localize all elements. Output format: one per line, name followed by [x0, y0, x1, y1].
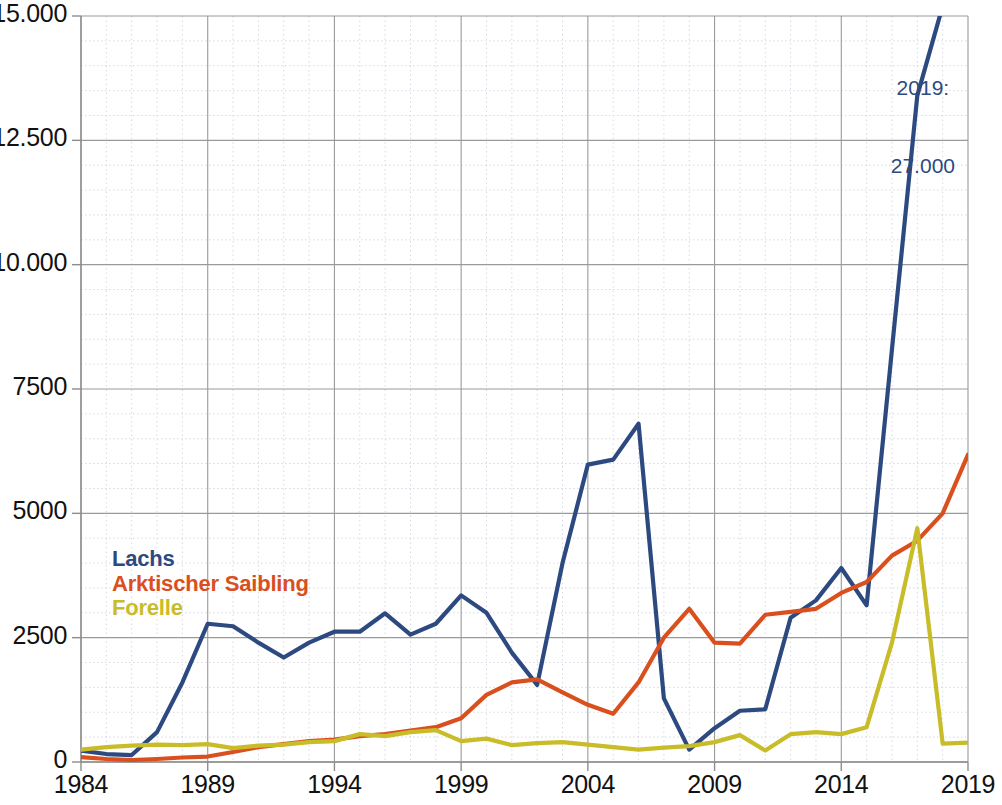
x-axis-tick-label: 1999 [391, 770, 531, 799]
x-axis-tick-label: 2014 [771, 770, 911, 799]
callout-year: 2019: [891, 75, 955, 101]
x-axis-tick-label: 1984 [11, 770, 151, 799]
chart-legend: Lachs Arktischer Saibling Forelle [112, 547, 309, 621]
x-axis-tick-label: 1989 [138, 770, 278, 799]
chart-container: Lachs Arktischer Saibling Forelle 2019: … [0, 0, 1002, 805]
legend-item-arktischer-saibling: Arktischer Saibling [112, 572, 309, 597]
legend-label-lachs: Lachs [112, 546, 175, 571]
legend-item-forelle: Forelle [112, 596, 309, 621]
x-axis-tick-label: 2004 [518, 770, 658, 799]
legend-item-lachs: Lachs [112, 547, 309, 572]
y-axis-tick-label: 7500 [13, 372, 67, 401]
legend-label-forelle: Forelle [112, 595, 183, 620]
x-axis-tick-label: 2019 [898, 770, 1002, 799]
x-axis-tick-label: 2009 [645, 770, 785, 799]
x-axis-tick-label: 1994 [264, 770, 404, 799]
callout-value: 27.000 [891, 153, 955, 179]
y-axis-tick-label: 15.000 [0, 0, 67, 28]
line-chart-plot [0, 0, 1002, 805]
lachs-2019-callout: 2019: 27.000 [891, 22, 955, 232]
y-axis-tick-label: 12.500 [0, 123, 67, 152]
y-axis-tick-label: 5000 [13, 496, 67, 525]
y-axis-tick-label: 10.000 [0, 248, 67, 277]
legend-label-arktischer-saibling: Arktischer Saibling [112, 571, 309, 596]
y-axis-tick-label: 2500 [13, 621, 67, 650]
